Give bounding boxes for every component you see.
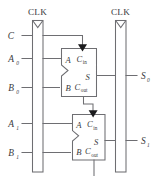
input-label-b0-base: B [8,83,14,93]
clk-label-right: CLK [111,7,130,17]
adder1-port-cin-sub: in [93,125,97,131]
output-label-s0-sub: 0 [147,77,150,83]
output-label-s1-base: S [141,136,146,146]
adder1-port-b-label: B [76,147,82,157]
adder0-port-cin-base: C [77,54,83,64]
input-label-a1: A 1 [7,119,19,131]
adder1-port-cout-base: C [85,146,91,156]
adder0-port-b-label: B [66,83,72,93]
input-label-a0-sub: 0 [16,60,19,66]
input-label-b1-base: B [8,148,14,158]
output-label-s1-sub: 1 [147,142,150,148]
adder1-port-sum-label: S [94,137,99,147]
wire-c-to-adder0-cin [43,36,83,45]
input-label-b1-sub: 1 [16,154,19,160]
adder0-port-cout-sub: out [81,87,88,93]
input-label-a1-base: A [7,119,14,129]
input-register-bar [33,21,44,173]
clk-label-left: CLK [28,7,47,17]
input-label-c-base: C [8,31,15,41]
schematic-canvas: CLK CLK C A 0 B 0 A 1 B 1 S 0 S 1 [0,0,159,181]
output-label-s1: S 1 [141,136,150,148]
adder-schematic-diagram: CLK CLK C A 0 B 0 A 1 B 1 S 0 S 1 [0,0,159,181]
output-register-bar [116,21,127,173]
input-label-b0-sub: 0 [16,89,19,95]
adder0-port-sum-label: S [86,72,91,82]
input-label-a0: A 0 [7,54,19,66]
adder1-port-cin-base: C [87,119,93,129]
input-label-a0-base: A [7,54,14,64]
input-label-b1: B 1 [8,148,19,160]
output-register-body [116,21,127,173]
input-label-b0: B 0 [8,83,19,95]
adder0-port-a-label: A [65,55,72,65]
adder0-port-cin-sub: in [83,59,87,65]
output-label-s0-base: S [141,71,146,81]
input-register-body [33,21,44,173]
input-label-a1-sub: 1 [16,125,19,131]
adder1-port-cout-sub: out [91,152,98,158]
wire-carry-chain-0-to-1 [84,97,94,111]
adder1-port-a-label: A [75,120,82,130]
input-label-c: C [8,31,15,41]
adder0-port-cout-base: C [75,82,81,92]
output-label-s0: S 0 [141,71,150,83]
